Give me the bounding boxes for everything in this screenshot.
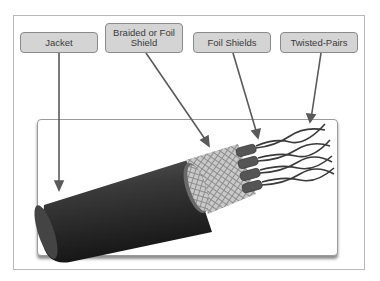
label-twisted-pairs: Twisted-Pairs (280, 32, 358, 53)
label-foil-shields-text: Foil Shields (207, 38, 256, 48)
label-foil-shields: Foil Shields (193, 32, 271, 53)
label-braided-shield-text: Braided or Foil Shield (112, 28, 176, 48)
label-twisted-pairs-text: Twisted-Pairs (290, 38, 347, 48)
twisted-pairs-shape (256, 124, 334, 185)
label-jacket-text: Jacket (45, 38, 72, 48)
label-jacket: Jacket (20, 32, 98, 53)
label-braided-shield: Braided or Foil Shield (105, 23, 183, 53)
